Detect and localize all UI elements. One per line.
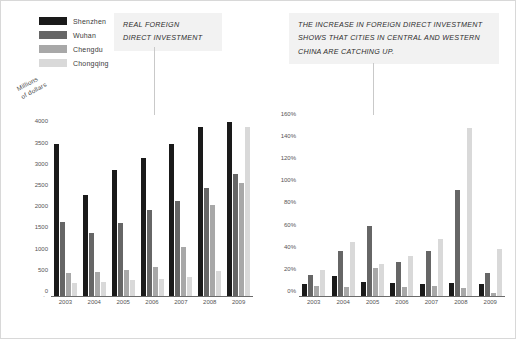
x-tick-label-2006: 2006 — [138, 299, 167, 311]
callout-real-fdi: REAL FOREIGN DIRECT INVESTMENT — [114, 13, 222, 51]
bar-chongqing-2009 — [497, 249, 502, 297]
bar-group — [446, 111, 475, 297]
legend-item-chengdu: Chengdu — [39, 43, 109, 55]
bar-wuhan-2003 — [308, 275, 313, 297]
bar-group — [138, 119, 167, 297]
callout-left-line-2: DIRECT INVESTMENT — [123, 33, 213, 43]
y-tick-label-right: 40% — [284, 244, 296, 250]
bar-wuhan-2004 — [338, 251, 343, 298]
bar-chengdu-2005 — [124, 270, 129, 297]
bar-shenzhen-2007 — [169, 144, 174, 297]
bar-group — [224, 119, 253, 297]
bar-chengdu-2006 — [153, 267, 158, 297]
legend-swatch-chengdu — [39, 45, 67, 53]
x-tick-label-2008: 2008 — [195, 299, 224, 311]
x-tick-label-2005: 2005 — [358, 299, 387, 311]
bar-wuhan-2004 — [89, 233, 94, 297]
bar-chongqing-2008 — [216, 271, 221, 297]
bar-chengdu-2005 — [373, 268, 378, 297]
bar-wuhan-2008 — [204, 188, 209, 297]
bar-group — [328, 111, 357, 297]
bar-group — [195, 119, 224, 297]
bar-shenzhen-2005 — [112, 170, 117, 297]
bar-chongqing-2005 — [130, 280, 135, 297]
bar-shenzhen-2008 — [449, 283, 454, 297]
bar-wuhan-2007 — [175, 201, 180, 297]
bar-shenzhen-2003 — [54, 144, 59, 297]
bar-wuhan-2005 — [118, 223, 123, 297]
x-tick-label-2009: 2009 — [476, 299, 505, 311]
legend-swatch-shenzhen — [39, 17, 67, 25]
bar-chongqing-2006 — [159, 279, 164, 297]
bar-chengdu-2008 — [210, 205, 215, 297]
bar-chongqing-2003 — [72, 283, 77, 297]
bar-group — [109, 119, 138, 297]
x-tick-label-2005: 2005 — [109, 299, 138, 311]
y-tick-label-left: 500 — [38, 267, 48, 273]
bar-group — [80, 119, 109, 297]
bar-group — [299, 111, 328, 297]
y-tick-label-right: 140% — [281, 133, 296, 139]
chart-real-fdi: · 05001000150020002500300035004000 20032… — [25, 119, 255, 311]
y-tick-label-left: 4000 — [35, 118, 48, 124]
bar-shenzhen-2003 — [302, 284, 307, 297]
bar-chengdu-2004 — [95, 272, 100, 297]
y-tick-label-left: 1500 — [35, 224, 48, 230]
callout-leader-line-right — [373, 63, 374, 115]
y-tick-label-right: 160% — [281, 111, 296, 117]
bar-chongqing-2008 — [467, 128, 472, 297]
x-tick-label-2003: 2003 — [51, 299, 80, 311]
plot-area-right: 0%20%40%60%80%100%120%140%160% — [299, 111, 505, 297]
y-tick-label-left: 2500 — [35, 182, 48, 188]
bar-group — [387, 111, 416, 297]
legend-swatch-wuhan — [39, 31, 67, 39]
bar-chengdu-2003 — [66, 273, 71, 297]
y-tick-label-right: 60% — [284, 222, 296, 228]
legend-item-shenzhen: Shenzhen — [39, 15, 109, 27]
bar-chongqing-2007 — [187, 277, 192, 297]
x-tick-label-2007: 2007 — [417, 299, 446, 311]
bar-group — [51, 119, 80, 297]
bar-wuhan-2005 — [367, 226, 372, 297]
bar-chongqing-2009 — [245, 127, 250, 297]
x-tick-label-2003: 2003 — [299, 299, 328, 311]
y-tick-label-left: 2000 — [35, 203, 48, 209]
x-axis-left: 2003200420052006200720082009 — [51, 299, 253, 311]
bar-chengdu-2009 — [239, 183, 244, 297]
x-tick-label-2006: 2006 — [387, 299, 416, 311]
legend-label-chongqing: Chongqing — [73, 60, 109, 67]
legend-item-wuhan: Wuhan — [39, 29, 109, 41]
bar-groups-left — [51, 119, 253, 297]
plot-area-left: · 05001000150020002500300035004000 — [51, 119, 253, 297]
y-tick-label-left: 3000 — [35, 161, 48, 167]
bar-shenzhen-2009 — [479, 284, 484, 297]
legend-label-chengdu: Chengdu — [73, 46, 103, 53]
x-axis-line-left — [51, 296, 253, 297]
bar-shenzhen-2007 — [420, 284, 425, 297]
bar-wuhan-2008 — [455, 190, 460, 297]
bar-chongqing-2004 — [350, 242, 355, 297]
chart-page: Shenzhen Wuhan Chengdu Chongqing REAL FO… — [0, 0, 516, 339]
x-tick-label-2004: 2004 — [328, 299, 357, 311]
bar-group — [166, 119, 195, 297]
callout-right-line-1: THE INCREASE IN FOREIGN DIRECT INVESTMEN… — [298, 20, 490, 30]
callout-leader-line-left — [154, 47, 155, 115]
bar-shenzhen-2004 — [332, 276, 337, 297]
bar-group — [476, 111, 505, 297]
bar-wuhan-2007 — [426, 251, 431, 298]
bar-wuhan-2006 — [147, 210, 152, 297]
bar-shenzhen-2005 — [361, 282, 366, 298]
bar-shenzhen-2006 — [141, 158, 146, 297]
bar-groups-right — [299, 111, 505, 297]
y-tick-label-right: 0% — [287, 288, 296, 294]
bar-wuhan-2009 — [485, 273, 490, 297]
bar-shenzhen-2004 — [83, 195, 88, 297]
bar-group — [358, 111, 387, 297]
callout-right-line-2: SHOWS THAT CITIES IN CENTRAL AND WESTERN — [298, 33, 490, 43]
bar-shenzhen-2006 — [390, 283, 395, 297]
x-tick-label-2004: 2004 — [80, 299, 109, 311]
legend-label-shenzhen: Shenzhen — [73, 18, 106, 25]
bar-chongqing-2007 — [438, 239, 443, 297]
x-tick-label-2009: 2009 — [224, 299, 253, 311]
bar-wuhan-2003 — [60, 222, 65, 297]
